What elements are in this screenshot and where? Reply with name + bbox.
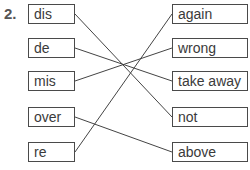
right-item-wrong[interactable]: wrong (172, 38, 248, 58)
right-item-above[interactable]: above (172, 142, 248, 162)
left-item-de[interactable]: de (28, 38, 75, 58)
right-item-take-away[interactable]: take away (172, 71, 248, 91)
left-item-over[interactable]: over (28, 107, 75, 127)
line-over-above (75, 117, 172, 152)
left-item-mis[interactable]: mis (28, 71, 75, 91)
line-re-again (75, 14, 172, 152)
right-item-again[interactable]: again (172, 4, 248, 24)
left-item-dis[interactable]: dis (28, 4, 75, 24)
left-item-re[interactable]: re (28, 142, 75, 162)
line-dis-not (75, 14, 172, 117)
right-item-not[interactable]: not (172, 107, 248, 127)
